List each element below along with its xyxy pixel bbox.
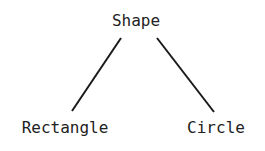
node-shape: Shape: [112, 11, 160, 30]
class-hierarchy-diagram: Shape Rectangle Circle: [0, 0, 265, 151]
node-rectangle: Rectangle: [22, 118, 109, 137]
edge-shape-rectangle: [72, 38, 121, 111]
node-circle: Circle: [187, 118, 245, 137]
edge-shape-circle: [157, 38, 214, 112]
